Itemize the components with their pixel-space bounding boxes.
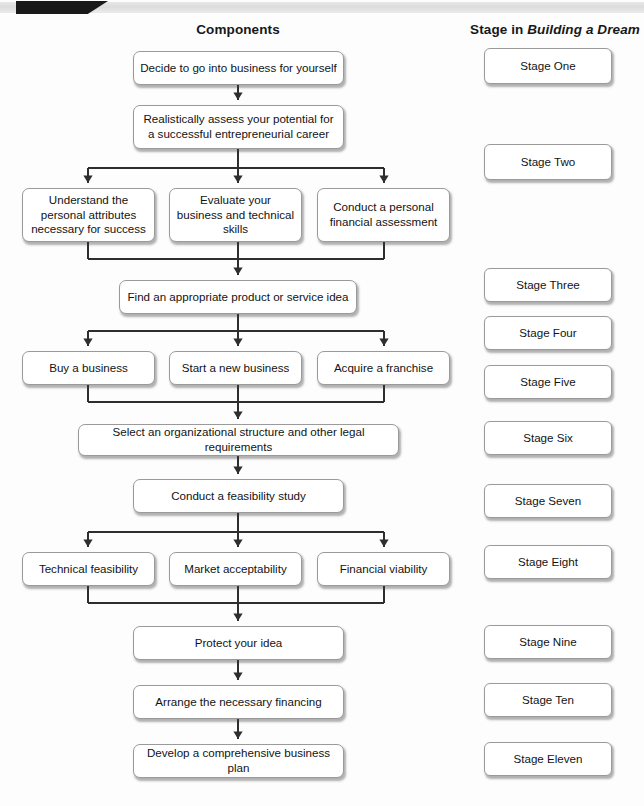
flow-node-label: Understand the personal attributes neces… (29, 193, 148, 237)
stage-box-10: Stage Ten (484, 683, 612, 717)
stage-box-label: Stage Three (516, 278, 580, 293)
flow-node-buy: Buy a business (22, 351, 155, 385)
flow-node-structure: Select an organizational structure and o… (78, 424, 399, 456)
flow-node-decide: Decide to go into business for yourself (133, 51, 344, 85)
flow-node-label: Conduct a personal financial assessment (324, 200, 443, 229)
flow-node-label: Market acceptability (184, 562, 286, 577)
flow-node-label: Acquire a franchise (334, 361, 433, 376)
flow-node-viability: Financial viability (317, 552, 450, 586)
flow-node-label: Protect your idea (195, 636, 283, 651)
flow-node-understand: Understand the personal attributes neces… (22, 188, 155, 242)
connector-arrowhead (233, 614, 242, 622)
stage-box-label: Stage Nine (519, 635, 576, 650)
components-column-heading: Components (0, 22, 476, 37)
flow-node-start: Start a new business (169, 351, 302, 385)
flow-node-plan: Develop a comprehensive business plan (133, 744, 344, 778)
stage-box-8: Stage Eight (484, 545, 612, 579)
connector-arrowhead (233, 673, 242, 681)
connector-arrowhead (379, 339, 388, 347)
connector-arrowhead (233, 732, 242, 740)
flow-node-label: Technical feasibility (39, 562, 138, 577)
stage-box-label: Stage Six (523, 431, 573, 446)
flow-node-label: Realistically assess your potential for … (140, 112, 337, 141)
flow-node-assess: Realistically assess your potential for … (133, 105, 344, 149)
stage-box-3: Stage Three (484, 268, 612, 302)
flow-node-label: Evaluate your business and technical ski… (176, 193, 295, 237)
flow-node-protect: Protect your idea (133, 626, 344, 660)
connector-arrowhead (233, 467, 242, 475)
flow-node-label: Select an organizational structure and o… (85, 425, 392, 454)
flow-node-label: Decide to go into business for yourself (140, 61, 337, 76)
flow-node-technical: Technical feasibility (22, 552, 155, 586)
connector-arrowhead (233, 93, 242, 101)
flow-node-feasibility: Conduct a feasibility study (133, 479, 344, 513)
stage-box-11: Stage Eleven (484, 742, 612, 776)
stage-box-label: Stage Seven (515, 494, 581, 509)
stage-box-1: Stage One (484, 48, 612, 84)
flow-node-label: Arrange the necessary financing (155, 695, 321, 710)
flow-node-market: Market acceptability (169, 552, 302, 586)
flow-node-label: Find an appropriate product or service i… (127, 290, 348, 305)
flow-node-financial: Conduct a personal financial assessment (317, 188, 450, 242)
stage-heading-prefix: Stage in (470, 22, 527, 37)
connector-arrowhead (233, 176, 242, 184)
stage-box-label: Stage Two (521, 155, 576, 170)
flow-node-finance: Arrange the necessary financing (133, 685, 344, 719)
flow-node-franchise: Acquire a franchise (317, 351, 450, 385)
stage-box-5: Stage Five (484, 365, 612, 399)
stage-box-label: Stage Eleven (514, 752, 583, 767)
stage-box-label: Stage One (520, 59, 575, 74)
flow-node-label: Conduct a feasibility study (171, 489, 306, 504)
connector-arrowhead (83, 176, 92, 184)
connector-arrowhead (233, 268, 242, 276)
flow-node-label: Financial viability (340, 562, 428, 577)
stage-box-label: Stage Eight (518, 555, 578, 570)
flow-node-label: Start a new business (182, 361, 290, 376)
stage-column-heading: Stage in Building a Dream (466, 22, 644, 37)
connector-arrowhead (83, 540, 92, 548)
figure-page: Components Stage in Building a Dream Dec… (0, 0, 644, 806)
flow-node-label: Develop a comprehensive business plan (140, 746, 337, 775)
stage-box-6: Stage Six (484, 421, 612, 455)
stage-box-4: Stage Four (484, 316, 612, 350)
stage-box-label: Stage Five (520, 375, 575, 390)
connector-arrowhead (83, 339, 92, 347)
stage-box-9: Stage Nine (484, 625, 612, 659)
connector-arrowhead (233, 540, 242, 548)
connector-arrowhead (379, 540, 388, 548)
flow-node-evaluate: Evaluate your business and technical ski… (169, 188, 302, 242)
connector-arrowhead (379, 176, 388, 184)
stage-box-label: Stage Ten (522, 693, 574, 708)
stage-heading-booktitle: Building a Dream (527, 22, 640, 37)
stage-box-7: Stage Seven (484, 484, 612, 518)
flow-node-label: Buy a business (49, 361, 128, 376)
stage-box-label: Stage Four (519, 326, 576, 341)
stage-box-2: Stage Two (484, 144, 612, 180)
connector-arrowhead (233, 339, 242, 347)
flow-node-find-idea: Find an appropriate product or service i… (119, 280, 357, 314)
connector-arrowhead (233, 412, 242, 420)
